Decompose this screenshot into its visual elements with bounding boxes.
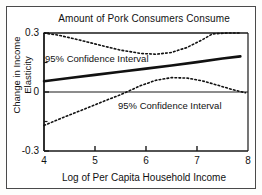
upper-confidence-interval-curve xyxy=(44,33,240,54)
y-axis-label: Change in Income Elasticity xyxy=(11,20,33,130)
axes-group xyxy=(44,33,248,151)
x-tick-label-4: 8 xyxy=(238,155,258,166)
x-tick-label-3: 7 xyxy=(187,155,207,166)
x-tick-label-1: 5 xyxy=(85,155,105,166)
chart-figure: Amount of Pork Consumers Consume 0.3 0 -… xyxy=(0,0,262,195)
x-axis-label: Log of Per Capita Household Income xyxy=(30,172,258,183)
x-tick-label-2: 6 xyxy=(136,155,156,166)
annotation-lower-ci: 95% Confidence Interval xyxy=(118,100,222,111)
annotation-upper-ci: 95% Confidence Interval xyxy=(45,53,149,64)
x-tick-label-0: 4 xyxy=(34,155,54,166)
